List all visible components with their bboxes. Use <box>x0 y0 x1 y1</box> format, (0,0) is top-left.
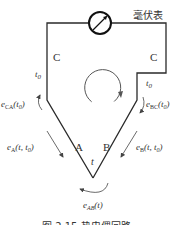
thermocouple-circuit-diagram: 毫伏表 C C t0 t0 A B t eCA(t0) eBC(t0) eA(t… <box>0 0 181 225</box>
label-e-a: eA(t, t0) <box>7 142 34 153</box>
meter-label: 毫伏表 <box>133 9 163 21</box>
label-left-t0: t0 <box>35 69 42 81</box>
millivoltmeter-icon <box>89 12 111 34</box>
label-hot-junction-t: t <box>91 156 94 167</box>
figure-caption: 图 2.15 热电偶回路 <box>42 220 131 225</box>
arrow-e-ca-icon <box>38 95 42 110</box>
label-e-ab: eAB(t) <box>83 200 103 211</box>
current-loop-arrow-icon <box>80 65 126 110</box>
label-wire-b: B <box>103 141 110 153</box>
label-wire-a: A <box>75 141 83 153</box>
label-e-ca: eCA(t0) <box>1 99 25 110</box>
label-right-t0: t0 <box>146 78 153 90</box>
arrow-e-a-icon <box>47 131 63 157</box>
label-left-c: C <box>53 51 60 63</box>
label-e-bc: eBC(t0) <box>146 99 170 110</box>
label-e-b: eB(t, t0) <box>136 142 163 153</box>
arrow-e-bc-icon <box>140 97 144 113</box>
right-wire-c-b <box>93 23 166 178</box>
arrow-e-b-icon <box>121 131 137 157</box>
label-right-c: C <box>150 51 157 63</box>
left-wire-c-a <box>47 23 93 178</box>
arrow-e-ab-icon <box>80 183 108 192</box>
